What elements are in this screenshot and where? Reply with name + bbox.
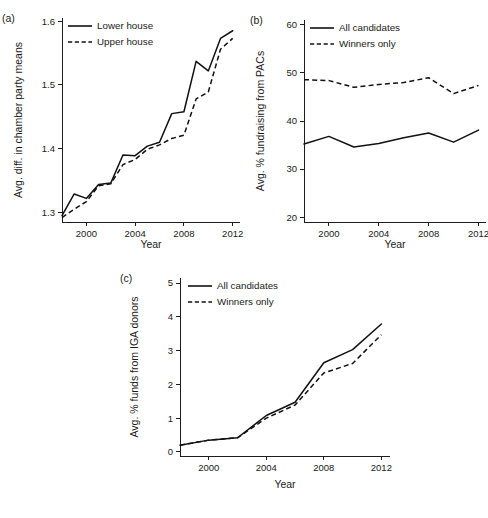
series-line (180, 335, 381, 445)
y-tick-label: 1.4 (42, 143, 55, 154)
panel-label: (a) (2, 12, 15, 24)
y-tick-label: 2 (168, 379, 173, 390)
x-tick-label: 2000 (318, 228, 339, 239)
y-tick-label: 5 (168, 277, 173, 288)
y-tick-label: 60 (286, 19, 297, 30)
x-tick-label: 2012 (222, 228, 243, 239)
y-tick-label: 50 (286, 67, 297, 78)
y-tick-label: 20 (286, 212, 297, 223)
x-tick-label: 2012 (468, 228, 488, 239)
x-axis-title: Year (274, 478, 296, 490)
y-tick-label: 30 (286, 163, 297, 174)
y-tick-label: 1.3 (42, 207, 55, 218)
series-line (304, 78, 479, 94)
x-tick-label: 2000 (198, 462, 219, 473)
x-tick-label: 2008 (173, 228, 194, 239)
series-line (180, 324, 381, 445)
series-line (62, 38, 233, 217)
x-tick-label: 2008 (313, 462, 334, 473)
legend-label: Winners only (217, 296, 274, 307)
panel-label: (b) (250, 14, 263, 26)
panel-a: (a)1.31.41.51.62000200420082012Lower hou… (0, 0, 250, 258)
y-axis-title: Avg. diff. in chamber party means (12, 42, 24, 198)
panel-c-plot: (c)0123452000200420082012All candidatesW… (118, 262, 398, 518)
y-tick-label: 1.6 (42, 16, 55, 27)
panel-b-plot: (b)20304050602000200420082012All candida… (248, 0, 488, 258)
y-tick-label: 4 (168, 311, 173, 322)
x-axis-title: Year (140, 238, 162, 250)
legend-label: Winners only (339, 38, 396, 49)
figure-container: (a)1.31.41.51.62000200420082012Lower hou… (0, 0, 488, 518)
series-line (304, 130, 479, 147)
y-axis-title: Avg. % fundraising from PACs (254, 51, 266, 191)
panel-b: (b)20304050602000200420082012All candida… (248, 0, 488, 258)
x-tick-label: 2000 (76, 228, 97, 239)
x-tick-label: 2012 (371, 462, 392, 473)
panel-a-plot: (a)1.31.41.51.62000200420082012Lower hou… (0, 0, 250, 258)
y-tick-label: 3 (168, 345, 173, 356)
panel-c: (c)0123452000200420082012All candidatesW… (118, 262, 398, 518)
x-tick-label: 2004 (256, 462, 277, 473)
y-axis-title: Avg. % funds from IGA donors (128, 296, 140, 437)
x-tick-label: 2008 (418, 228, 439, 239)
y-tick-label: 1 (168, 413, 173, 424)
panel-label: (c) (120, 272, 132, 284)
y-tick-label: 0 (168, 446, 173, 457)
x-axis-title: Year (384, 238, 406, 250)
y-tick-label: 40 (286, 115, 297, 126)
y-tick-label: 1.5 (42, 79, 55, 90)
series-line (62, 31, 233, 216)
legend-label: Upper house (97, 36, 154, 47)
legend-label: All candidates (339, 22, 400, 33)
legend-label: Lower house (97, 20, 154, 31)
legend-label: All candidates (217, 280, 278, 291)
